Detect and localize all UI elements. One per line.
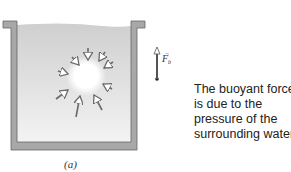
caption-line: is due to the (194, 97, 291, 112)
buoyant-force-vector (154, 47, 160, 81)
caption-line: The buoyant force (194, 82, 291, 97)
water-region (66, 56, 106, 96)
force-subscript: b (168, 59, 171, 65)
svg-text:→: → (164, 50, 170, 56)
panel-label: (a) (64, 158, 77, 170)
caption-line: surrounding water. (194, 127, 291, 142)
caption-line: pressure of the (194, 112, 291, 127)
caption: The buoyant force is due to the pressure… (194, 82, 291, 142)
